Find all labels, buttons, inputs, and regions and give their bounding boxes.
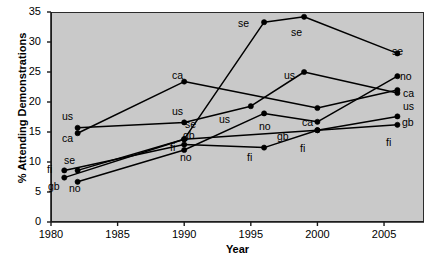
point-label-ca: ca	[302, 117, 313, 128]
point-label-ca: ca	[403, 88, 414, 99]
point-label-gb: gb	[48, 181, 60, 192]
series-se	[75, 14, 400, 173]
x-tick-label: 1990	[164, 229, 204, 240]
point-label-no: no	[400, 71, 412, 82]
chart-container: % Attending Demonstrations Year 05101520…	[0, 0, 431, 262]
point-label-fi: fi	[386, 137, 391, 148]
point-label-no: no	[180, 152, 192, 163]
point-label-ca: ca	[172, 70, 183, 81]
point-label-us: us	[62, 111, 73, 122]
y-tick-label: 10	[15, 156, 41, 167]
point-label-gb: gb	[402, 117, 414, 128]
x-tick-label: 2005	[364, 229, 404, 240]
point-label-se: se	[185, 119, 196, 130]
point-label-se: se	[238, 18, 249, 29]
y-tick-label: 15	[15, 126, 41, 137]
series-no	[75, 74, 400, 185]
y-tick-label: 20	[15, 96, 41, 107]
point-label-ca: ca	[62, 133, 73, 144]
x-axis-title: Year	[51, 243, 424, 255]
point-label-no: no	[69, 183, 81, 194]
x-tick-label: 1995	[231, 229, 271, 240]
point-label-fi: fi	[247, 152, 252, 163]
point-label-us: us	[172, 106, 183, 117]
y-tick-label: 30	[15, 36, 41, 47]
y-tick-label: 5	[15, 186, 41, 197]
point-label-fi: fi	[47, 164, 52, 175]
point-label-gb: gb	[183, 130, 195, 141]
point-label-se: se	[64, 155, 75, 166]
point-label-fi: fi	[170, 142, 175, 153]
point-label-no: no	[259, 121, 271, 132]
y-tick-label: 25	[15, 66, 41, 77]
x-tick-label: 1980	[31, 229, 71, 240]
point-label-se: se	[392, 46, 403, 57]
point-label-us: us	[403, 101, 414, 112]
y-tick-label: 0	[15, 216, 41, 227]
point-label-gb: gb	[277, 131, 289, 142]
point-label-se: se	[291, 27, 302, 38]
point-label-us: us	[219, 114, 230, 125]
axes	[51, 12, 424, 222]
y-tick-label: 35	[15, 6, 41, 17]
series-fi	[62, 122, 400, 173]
chart-svg	[0, 0, 431, 262]
x-tick-label: 1985	[98, 229, 138, 240]
tick-marks	[47, 12, 384, 226]
point-label-fi: fi	[300, 143, 305, 154]
point-label-us: us	[284, 70, 295, 81]
x-tick-label: 2000	[297, 229, 337, 240]
